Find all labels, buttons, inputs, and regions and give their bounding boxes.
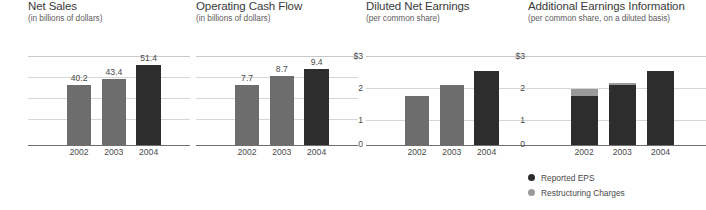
- bar-group: [405, 49, 499, 145]
- bar-value-label: 7.7: [241, 73, 253, 83]
- x-label-2004: 2004: [136, 147, 160, 157]
- bar-2004[interactable]: 51.4: [136, 65, 160, 145]
- x-label-2004: 2004: [304, 147, 328, 157]
- x-axis-labels: 2002 2003 2004: [405, 147, 499, 157]
- chart-panel-additional-earnings-information: Additional Earnings Information (per com…: [510, 0, 688, 170]
- bar-2003[interactable]: [440, 85, 464, 145]
- bar-2004[interactable]: [474, 71, 498, 145]
- x-label-2004: 2004: [474, 147, 498, 157]
- bar-group: [571, 49, 674, 145]
- x-label-2002: 2002: [235, 147, 259, 157]
- legend-item-label: Reported EPS: [541, 173, 595, 183]
- legend-item-restructuring-charges[interactable]: Restructuring Charges: [528, 185, 625, 200]
- chart-panel-diluted-net-earnings: Diluted Net Earnings (per common share) …: [348, 0, 510, 170]
- y-tick-0: 0: [520, 139, 525, 149]
- bar-slot: [440, 49, 464, 145]
- bar-slot: [571, 49, 598, 145]
- y-tick-3: $3: [353, 51, 363, 61]
- bar-segment-reported-eps-2003[interactable]: [609, 85, 636, 145]
- bar-slot: 7.7: [235, 49, 259, 145]
- y-tick-3: $3: [515, 51, 525, 61]
- plot-area: $3 2 1 0: [366, 50, 528, 146]
- plot-area: 40.2 43.4 51.4: [28, 50, 190, 146]
- bar-slot: 8.7: [270, 49, 294, 145]
- bar-2004[interactable]: 9.4: [304, 69, 328, 145]
- chart-subtitle: (per common share): [366, 13, 510, 24]
- bar-value-label: 8.7: [276, 64, 288, 74]
- x-label-2003: 2003: [440, 147, 464, 157]
- chart-title: Additional Earnings Information: [528, 0, 688, 13]
- legend-swatch-icon: [528, 174, 535, 181]
- bar-2002[interactable]: 40.2: [67, 85, 91, 145]
- bar-slot: [474, 49, 498, 145]
- y-tick-2: 2: [520, 83, 525, 93]
- bar-slot: 51.4: [136, 49, 160, 145]
- bar-slot: 9.4: [304, 49, 328, 145]
- bar-value-label: 43.4: [105, 67, 122, 77]
- bar-value-label: 9.4: [311, 57, 323, 67]
- x-label-2004: 2004: [647, 147, 674, 157]
- chart-subtitle: (per common share, on a diluted basis): [528, 13, 688, 24]
- bar-value-label: 40.2: [71, 73, 88, 83]
- x-axis-labels: 2002 2003 2004: [67, 147, 161, 157]
- plot-area: $3 2 1 0: [528, 50, 706, 146]
- bar-slot: [405, 49, 429, 145]
- x-label-2003: 2003: [102, 147, 126, 157]
- legend-item-label: Restructuring Charges: [541, 188, 625, 198]
- x-axis-labels: 2002 2003 2004: [571, 147, 674, 157]
- bar-2002[interactable]: 7.7: [235, 85, 259, 145]
- y-tick-0: 0: [358, 139, 363, 149]
- x-label-2002: 2002: [405, 147, 429, 157]
- bar-slot: 43.4: [102, 49, 126, 145]
- bar-slot: [647, 49, 674, 145]
- bar-slot: 40.2: [67, 49, 91, 145]
- chart-legend: Reported EPS Restructuring Charges: [528, 170, 625, 200]
- chart-title: Diluted Net Earnings: [366, 0, 510, 13]
- x-label-2003: 2003: [270, 147, 294, 157]
- chart-title: Net Sales: [28, 0, 190, 13]
- x-axis-labels: 2002 2003 2004: [235, 147, 329, 157]
- chart-panel-net-sales: Net Sales (in billions of dollars) 40.2 …: [28, 0, 190, 170]
- bar-segment-reported-eps-2004[interactable]: [647, 71, 674, 145]
- bar-group: 7.7 8.7 9.4: [235, 49, 329, 145]
- x-label-2003: 2003: [609, 147, 636, 157]
- y-tick-2: 2: [358, 83, 363, 93]
- y-tick-1: 1: [520, 115, 525, 125]
- chart-title: Operating Cash Flow: [196, 0, 358, 13]
- bar-slot: [609, 49, 636, 145]
- legend-swatch-icon: [528, 189, 535, 196]
- chart-subtitle: (in billions of dollars): [196, 13, 358, 24]
- chart-panel-operating-cash-flow: Operating Cash Flow (in billions of doll…: [196, 0, 358, 170]
- x-label-2002: 2002: [571, 147, 598, 157]
- bar-2003[interactable]: 43.4: [102, 79, 126, 145]
- bar-2002[interactable]: [405, 96, 429, 145]
- bar-group: 40.2 43.4 51.4: [67, 49, 161, 145]
- bar-2003[interactable]: 8.7: [270, 76, 294, 145]
- chart-subtitle: (in billions of dollars): [28, 13, 190, 24]
- legend-item-reported-eps[interactable]: Reported EPS: [528, 170, 625, 185]
- bar-value-label: 51.4: [140, 53, 157, 63]
- x-label-2002: 2002: [67, 147, 91, 157]
- bar-segment-reported-eps-2002[interactable]: [571, 96, 598, 145]
- plot-area: 7.7 8.7 9.4: [196, 50, 358, 146]
- y-tick-1: 1: [358, 115, 363, 125]
- bar-segment-restructuring-2002[interactable]: [571, 89, 598, 96]
